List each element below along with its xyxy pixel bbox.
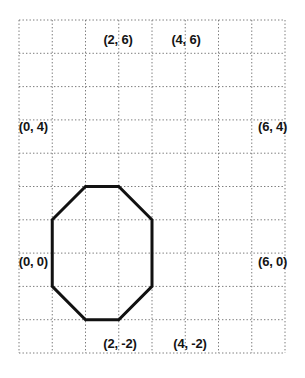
vertex-label-4-m2: (4, -2) — [173, 337, 206, 351]
vertex-label-0-4: (0, 4) — [19, 120, 48, 134]
grid — [19, 20, 285, 353]
vertex-label-6-4: (6, 4) — [258, 120, 287, 134]
vertex-label-4-6: (4, 6) — [171, 33, 200, 47]
vertex-label-2-m2: (2, -2) — [103, 337, 136, 351]
vertex-label-0-0: (0, 0) — [19, 255, 48, 269]
plot-canvas — [0, 0, 305, 378]
vertex-label-2-6: (2, 6) — [103, 33, 132, 47]
vertex-label-6-0: (6, 0) — [258, 255, 287, 269]
octagon-coordinate-figure: (0, 4) (2, 6) (4, 6) (6, 4) (6, 0) (4, -… — [0, 0, 305, 378]
octagon-shape — [52, 187, 152, 320]
octagon-polyline — [52, 187, 152, 320]
